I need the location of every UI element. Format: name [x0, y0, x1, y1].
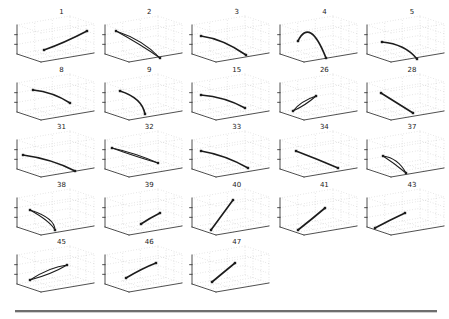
axes3d	[362, 8, 449, 65]
endpoint-marker	[139, 223, 141, 225]
trajectory-curve	[296, 151, 338, 168]
endpoint-marker	[110, 147, 112, 149]
axes3d	[275, 181, 362, 238]
endpoint-marker	[143, 112, 145, 114]
trajectory-curve	[298, 208, 325, 230]
endpoint-marker	[124, 277, 126, 279]
endpoint-marker	[200, 93, 202, 95]
endpoint-marker	[295, 150, 297, 152]
subplot-28: 28	[362, 66, 449, 123]
endpoint-marker	[315, 94, 317, 96]
subplot-45: 45	[12, 238, 99, 295]
trajectory-curve	[375, 213, 405, 228]
trajectory-curve	[116, 31, 160, 58]
subplot-39: 39	[100, 181, 187, 238]
endpoint-marker	[29, 209, 31, 211]
endpoint-marker	[54, 229, 56, 231]
endpoint-marker	[232, 199, 234, 201]
axes3d	[100, 66, 187, 123]
subplot-9: 9	[100, 66, 187, 123]
subplot-26: 26	[275, 66, 362, 123]
trajectory-curve	[120, 91, 145, 114]
endpoint-marker	[211, 281, 213, 283]
axes3d	[12, 8, 99, 65]
endpoint-marker	[244, 106, 246, 108]
trajectory-curve	[112, 148, 158, 163]
axes3d	[275, 123, 362, 180]
subplot-38: 38	[12, 181, 99, 238]
endpoint-marker	[405, 172, 407, 174]
subplot-2: 2	[100, 8, 187, 65]
axes3d	[187, 181, 274, 238]
endpoint-marker	[154, 262, 156, 264]
subplot-47: 47	[187, 238, 274, 295]
trajectory-curve	[211, 200, 233, 230]
subplot-8: 8	[12, 66, 99, 123]
endpoint-marker	[412, 111, 414, 113]
endpoint-marker	[74, 170, 76, 172]
axes3d	[187, 66, 274, 123]
endpoint-marker	[245, 54, 247, 56]
endpoint-marker	[118, 89, 120, 91]
subplot-34: 34	[275, 123, 362, 180]
endpoint-marker	[32, 88, 34, 90]
trajectory-curve	[201, 95, 245, 108]
endpoint-marker	[382, 155, 384, 157]
endpoint-marker	[86, 30, 88, 32]
subplot-43: 43	[362, 181, 449, 238]
trajectory-curve	[383, 156, 406, 173]
subplot-15: 15	[187, 66, 274, 123]
endpoint-marker	[297, 40, 299, 42]
subplot-1: 1	[12, 8, 99, 65]
endpoint-marker	[69, 101, 71, 103]
endpoint-marker	[234, 262, 236, 264]
endpoint-marker	[43, 49, 45, 51]
axes3d	[187, 123, 274, 180]
subplot-4: 4	[275, 8, 362, 65]
trajectory-curve	[23, 155, 75, 171]
axes3d	[187, 8, 274, 65]
endpoint-marker	[404, 212, 406, 214]
axes3d	[275, 66, 362, 123]
axes3d	[12, 66, 99, 123]
axes3d	[362, 123, 449, 180]
subplot-3: 3	[187, 8, 274, 65]
trajectory-curve	[44, 31, 87, 50]
figure-canvas: 123458915262831323334373839404143454647	[0, 0, 449, 319]
endpoint-marker	[416, 58, 418, 60]
endpoint-marker	[337, 167, 339, 169]
endpoint-marker	[22, 154, 24, 156]
endpoint-marker	[292, 109, 294, 111]
subplot-46: 46	[100, 238, 187, 295]
endpoint-marker	[114, 30, 116, 32]
endpoint-marker	[381, 41, 383, 43]
subplot-41: 41	[275, 181, 362, 238]
endpoint-marker	[374, 227, 376, 229]
endpoint-marker	[158, 212, 160, 214]
endpoint-marker	[200, 35, 202, 37]
endpoint-marker	[156, 162, 158, 164]
bottom-divider	[15, 310, 437, 313]
trajectory-curve	[126, 263, 156, 278]
axes3d	[362, 181, 449, 238]
trajectory-curve	[201, 36, 246, 55]
trajectory-curve	[30, 265, 67, 280]
endpoint-marker	[210, 229, 212, 231]
axes3d	[362, 66, 449, 123]
axes3d	[12, 123, 99, 180]
axes3d	[12, 238, 99, 295]
endpoint-marker	[29, 279, 31, 281]
trajectory-curve	[33, 90, 70, 103]
endpoint-marker	[380, 91, 382, 93]
trajectory-curve	[30, 210, 55, 230]
subplot-5: 5	[362, 8, 449, 65]
endpoint-marker	[158, 57, 160, 59]
axes3d	[187, 238, 274, 295]
subplot-33: 33	[187, 123, 274, 180]
axes3d	[100, 181, 187, 238]
endpoint-marker	[247, 167, 249, 169]
endpoint-marker	[325, 57, 327, 59]
trajectory-curve	[212, 263, 235, 282]
axes3d	[275, 8, 362, 65]
endpoint-marker	[297, 229, 299, 231]
